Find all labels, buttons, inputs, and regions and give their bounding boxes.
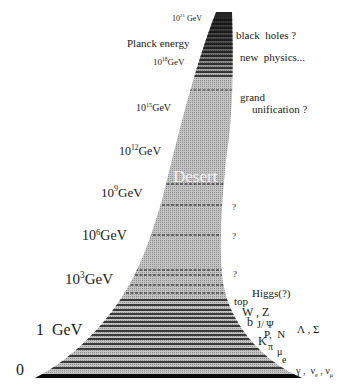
energy-scale-diagram: Desert 1021 GeV Planck energy 1018GeV 10… [0, 0, 361, 390]
label-grand: grand [240, 92, 265, 103]
label-zero: 0 [16, 362, 24, 378]
label-black-holes: black holes ? [236, 30, 296, 41]
label-1e6-gev: 106GeV [82, 229, 127, 243]
label-1e3-gev: 103GeV [65, 272, 113, 287]
label-photon-neutrinos: γ , νe , νμ [296, 366, 333, 376]
desert-label: Desert [173, 168, 217, 185]
label-b: b [247, 316, 253, 328]
label-1e18-gev: 1018GeV [153, 58, 185, 67]
label-planck-energy: Planck energy [127, 38, 189, 49]
label-1e15-gev: 1015GeV [136, 103, 171, 113]
label-1-gev: 1 GeV [36, 322, 82, 338]
label-1e12-gev: 1012GeV [119, 145, 161, 157]
label-question-2: ? [232, 232, 236, 241]
label-question-3: ? [233, 270, 237, 279]
label-higgs: Higgs(?) [252, 288, 291, 299]
label-1e9-gev: 109GeV [101, 186, 143, 199]
label-pi: π [268, 342, 273, 352]
label-new-physics: new physics... [240, 52, 305, 63]
label-lambda-sigma: Λ , Σ [297, 324, 319, 335]
label-1e21-gev: 1021 GeV [172, 15, 202, 23]
label-k: K [258, 335, 267, 347]
label-unification: unification ? [252, 104, 307, 115]
label-p-n: P, N [264, 329, 285, 340]
label-question-1: ? [232, 203, 236, 212]
label-e: e [282, 355, 286, 365]
